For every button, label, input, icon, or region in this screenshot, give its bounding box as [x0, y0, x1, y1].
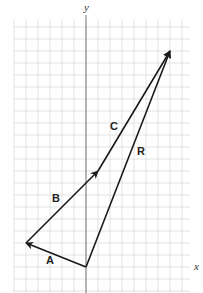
vector-a-label: A — [46, 254, 54, 266]
vector-diagram: y x A B C R — [0, 0, 203, 293]
grid — [14, 19, 190, 293]
y-axis-label: y — [83, 1, 89, 13]
vector-c-label: C — [110, 120, 118, 132]
vector-b-label: B — [52, 192, 60, 204]
x-axis-label: x — [193, 260, 199, 272]
vector-r-label: R — [137, 145, 145, 157]
